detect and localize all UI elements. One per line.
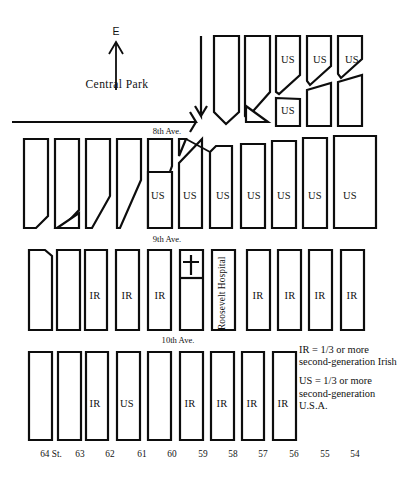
avenue-label: 9th Ave. — [151, 235, 183, 244]
block-label-ir: IR — [285, 291, 296, 302]
legend-entry: US = 1/3 or more second-generation U.S.A… — [299, 375, 397, 412]
street-label: 59 — [198, 450, 207, 459]
block-label-us: US — [277, 191, 291, 202]
block-label-ir: IR — [315, 291, 326, 302]
block-label-us: US — [308, 191, 322, 202]
central-park-label: Central Park — [85, 79, 148, 91]
manhattan-ethnicity-map: E Central Park Roosevelt Hospital 8th Av… — [0, 0, 401, 480]
block-label-us: US — [281, 55, 295, 66]
block-label-us: US — [281, 106, 295, 117]
columbus-circle-spokes — [195, 36, 207, 116]
block-label-ir: IR — [185, 399, 196, 410]
block-label-us: US — [343, 191, 357, 202]
block-label-ir: IR — [347, 291, 358, 302]
street-label: 64 St. — [40, 450, 62, 459]
street-label: 54 — [350, 450, 359, 459]
block-label-ir: IR — [122, 291, 133, 302]
block-label-us: US — [313, 55, 327, 66]
direction-label-east: E — [112, 26, 119, 37]
avenue-label: 8th Ave. — [151, 127, 183, 136]
street-label: 61 — [137, 450, 146, 459]
block-label-us: US — [183, 191, 197, 202]
roosevelt-hospital-label: Roosevelt Hospital — [218, 246, 228, 330]
street-label: 58 — [228, 450, 237, 459]
block-label-us: US — [120, 399, 134, 410]
street-label: 57 — [258, 450, 267, 459]
street-label: 62 — [105, 450, 114, 459]
block-label-ir: IR — [253, 291, 264, 302]
block-label-us: US — [345, 55, 359, 66]
block-label-ir: IR — [278, 399, 289, 410]
block-group-middle — [24, 136, 376, 228]
block-label-ir: IR — [90, 399, 101, 410]
block-label-ir: IR — [155, 291, 166, 302]
street-label: 56 — [289, 450, 298, 459]
block-group-bottom — [29, 352, 296, 440]
street-label: 55 — [320, 450, 329, 459]
street-label: 63 — [75, 450, 84, 459]
avenue-label: 10th Ave. — [160, 336, 197, 345]
block-label-us: US — [151, 191, 165, 202]
block-label-ir: IR — [247, 399, 258, 410]
legend: IR = 1/3 or more second-generation Irish… — [299, 344, 397, 412]
legend-entry: IR = 1/3 or more second-generation Irish — [299, 344, 397, 368]
block-label-ir: IR — [217, 399, 228, 410]
block-label-ir: IR — [90, 291, 101, 302]
block-label-us: US — [216, 191, 230, 202]
block-label-us: US — [247, 191, 261, 202]
street-label: 60 — [167, 450, 176, 459]
